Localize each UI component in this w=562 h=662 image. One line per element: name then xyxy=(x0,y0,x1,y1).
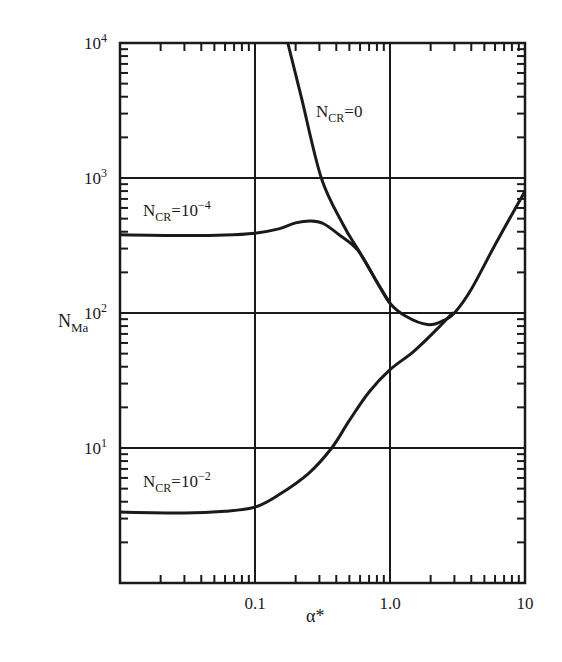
series-label: NCR=0 xyxy=(316,102,362,125)
curve-series-0 xyxy=(288,43,525,325)
x-tick-labels: 0.11.010 xyxy=(244,594,533,613)
series-labels: NCR=0NCR=10−4NCR=10−2 xyxy=(143,102,362,495)
grid-lines xyxy=(120,43,525,583)
y-axis-label-main: N xyxy=(58,311,71,331)
series-label: NCR=10−4 xyxy=(143,198,211,224)
y-tick-labels: 101102103104 xyxy=(84,31,107,458)
y-tick-label: 103 xyxy=(84,166,107,188)
x-axis-label: α* xyxy=(306,606,324,626)
y-axis-label-sub: Ma xyxy=(71,320,89,335)
x-tick-label: 0.1 xyxy=(244,594,265,613)
chart: 0.11.010 101102103104 NCR=0NCR=10−4NCR=1… xyxy=(0,0,562,662)
x-tick-label: 10 xyxy=(517,594,534,613)
series-label: NCR=10−2 xyxy=(143,469,211,495)
y-tick-label: 101 xyxy=(84,436,107,458)
x-tick-label: 1.0 xyxy=(379,594,400,613)
y-tick-label: 104 xyxy=(84,31,107,53)
